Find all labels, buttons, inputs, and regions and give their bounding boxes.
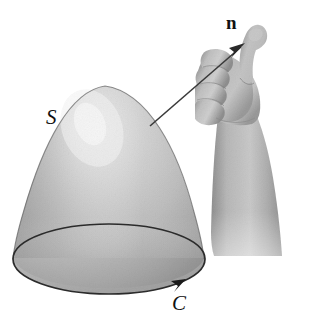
surface-label-S: S <box>46 107 57 128</box>
forearm <box>211 114 282 256</box>
figure-canvas <box>0 0 316 321</box>
normal-label-n: n <box>226 13 237 32</box>
vector-calculus-figure: S C n <box>0 0 316 321</box>
right-hand-thumb-up <box>193 25 282 256</box>
curve-label-C: C <box>172 293 186 314</box>
